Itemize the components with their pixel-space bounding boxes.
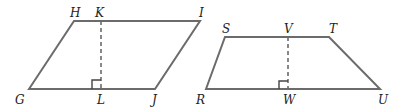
label-l: L (96, 93, 105, 107)
label-r: R (195, 93, 205, 107)
trapezoid-rstu: S V T R W U (195, 22, 389, 107)
label-s: S (222, 22, 230, 36)
right-angle-marker-w (279, 81, 288, 89)
label-j: J (149, 93, 158, 107)
label-t: T (329, 22, 338, 36)
label-g: G (15, 93, 25, 107)
label-v: V (284, 22, 294, 36)
trapezoid-outline (206, 37, 380, 89)
label-k: K (94, 6, 105, 20)
parallelogram-ghij: H K I G L J (15, 6, 204, 107)
right-angle-marker-l (92, 80, 101, 89)
geometry-diagram: H K I G L J S V T R W U (0, 0, 407, 109)
label-u: U (378, 93, 389, 107)
parallelogram-outline (29, 21, 200, 89)
label-w: W (283, 93, 297, 107)
label-h: H (69, 6, 81, 20)
label-i: I (198, 6, 204, 20)
